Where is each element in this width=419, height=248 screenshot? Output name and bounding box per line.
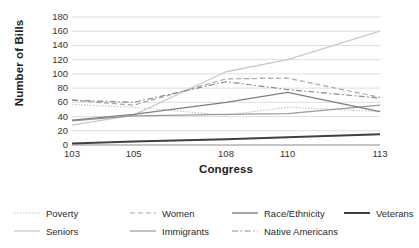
legend-item[interactable]: Seniors — [14, 224, 78, 238]
legend-item[interactable]: Native Americans — [232, 224, 338, 238]
chart-legend: PovertyWomenRace/EthnicityVeteransSenior… — [14, 206, 414, 242]
x-axis-title: Congress — [72, 163, 380, 175]
x-axis-tick-label: 113 — [360, 148, 400, 159]
legend-label: Seniors — [46, 226, 78, 237]
y-axis-tick-label: 120 — [28, 55, 68, 65]
y-axis-tick-label: 140 — [28, 40, 68, 50]
legend-swatch-icon — [130, 226, 156, 236]
legend-label: Veterans — [376, 208, 414, 219]
legend-label: Poverty — [46, 208, 78, 219]
y-axis-tick-label: 80 — [28, 83, 68, 93]
x-axis-tick-label: 110 — [268, 148, 308, 159]
x-axis-tick-labels: 103105108110113 — [72, 148, 380, 162]
legend-item[interactable]: Veterans — [344, 206, 414, 220]
legend-swatch-icon — [14, 208, 40, 218]
plot-area — [72, 17, 380, 145]
legend-swatch-icon — [232, 226, 258, 236]
y-axis-tick-label: 100 — [28, 69, 68, 79]
x-axis-tick-label: 108 — [206, 148, 246, 159]
legend-label: Immigrants — [162, 226, 209, 237]
y-axis-tick-label: 20 — [28, 126, 68, 136]
legend-swatch-icon — [14, 226, 40, 236]
legend-item[interactable]: Immigrants — [130, 224, 209, 238]
line-chart: Number of Bills 180160140120100806040200… — [0, 0, 419, 248]
legend-label: Race/Ethnicity — [264, 208, 325, 219]
y-axis-tick-label: 40 — [28, 112, 68, 122]
series-line — [72, 134, 380, 143]
y-axis-tick-label: 160 — [28, 26, 68, 36]
legend-item[interactable]: Race/Ethnicity — [232, 206, 325, 220]
legend-item[interactable]: Women — [130, 206, 195, 220]
x-axis-tick-label: 105 — [114, 148, 154, 159]
legend-label: Native Americans — [264, 226, 338, 237]
y-axis-title: Number of Bills — [13, 3, 25, 123]
legend-swatch-icon — [232, 208, 258, 218]
y-axis-tick-labels: 180160140120100806040200 — [28, 10, 68, 150]
y-axis-tick-label: 180 — [28, 12, 68, 22]
x-axis-tick-label: 103 — [52, 148, 92, 159]
y-axis-tick-label: 60 — [28, 97, 68, 107]
series-line — [72, 105, 380, 121]
legend-swatch-icon — [344, 208, 370, 218]
series-line — [72, 82, 380, 103]
legend-item[interactable]: Poverty — [14, 206, 78, 220]
legend-label: Women — [162, 208, 195, 219]
legend-swatch-icon — [130, 208, 156, 218]
plot-svg — [72, 17, 380, 145]
